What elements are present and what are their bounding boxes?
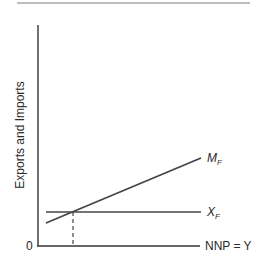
x-axis-label: NNP = Y bbox=[205, 239, 252, 253]
origin-label: 0 bbox=[26, 239, 33, 253]
xf-label: XF bbox=[206, 205, 221, 221]
chart: MF XF NNP = Y 0 Exports and Imports bbox=[0, 0, 266, 268]
mf-label: MF bbox=[207, 151, 223, 167]
y-axis-label: Exports and Imports bbox=[13, 81, 27, 188]
mf-line bbox=[46, 158, 201, 223]
